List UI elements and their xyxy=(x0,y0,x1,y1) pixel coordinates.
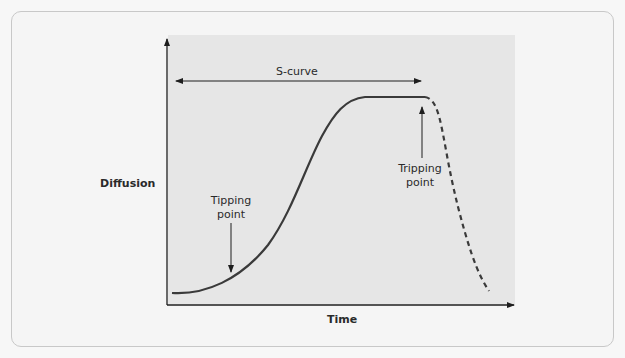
s-curve-diagram xyxy=(0,0,625,358)
tipping-point-label-line1: Tipping xyxy=(211,194,251,208)
tipping-point-label-line2: point xyxy=(211,208,251,222)
tipping-point-label: Tipping point xyxy=(211,194,251,222)
x-axis-label: Time xyxy=(327,313,357,327)
s-curve-label: S-curve xyxy=(276,65,318,79)
y-axis-label: Diffusion xyxy=(100,177,155,190)
tripping-point-label-line2: point xyxy=(398,176,442,190)
plot-area xyxy=(168,35,515,304)
tripping-point-label-line1: Tripping xyxy=(398,162,442,176)
tripping-point-label: Tripping point xyxy=(398,162,442,190)
